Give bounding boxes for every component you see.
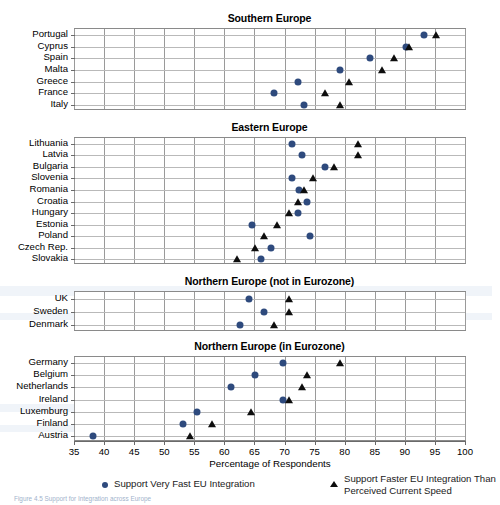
data-point-triangle xyxy=(186,432,194,439)
gridline-vertical xyxy=(74,138,75,263)
gridline-vertical xyxy=(74,357,75,440)
gridline-vertical xyxy=(224,138,225,263)
legend-label-faster: Support Faster EU Integration ThanPercei… xyxy=(344,473,500,496)
y-axis-label-uk: UK xyxy=(0,293,74,303)
data-point-triangle xyxy=(300,186,308,193)
x-axis-tick-label: 40 xyxy=(99,446,110,457)
y-axis-label-germany: Germany xyxy=(0,357,74,367)
data-point-circle xyxy=(300,102,307,109)
gridline-horizontal xyxy=(75,424,465,425)
gridline-vertical xyxy=(465,292,466,330)
data-point-triangle xyxy=(247,408,255,415)
gridline-horizontal xyxy=(75,400,465,401)
x-axis-tick-label: 80 xyxy=(339,446,350,457)
y-axis-label-poland: Poland xyxy=(0,230,74,240)
data-point-triangle xyxy=(233,255,241,262)
gridline-vertical xyxy=(375,29,376,109)
y-axis-label-france: France xyxy=(0,87,74,97)
data-point-triangle xyxy=(285,295,293,302)
x-axis-tick xyxy=(74,441,75,445)
data-point-circle xyxy=(366,55,373,62)
gridline-vertical xyxy=(345,29,346,109)
gridline-vertical xyxy=(375,357,376,440)
gridline-vertical xyxy=(134,138,135,263)
gridline-horizontal xyxy=(75,178,465,179)
gridline-vertical xyxy=(164,29,165,109)
data-point-circle xyxy=(288,175,295,182)
gridline-vertical xyxy=(465,357,466,440)
legend-circle-marker-icon xyxy=(102,482,108,488)
gridline-horizontal xyxy=(75,35,465,36)
data-point-circle xyxy=(306,233,313,240)
data-point-triangle xyxy=(345,78,353,85)
data-point-circle xyxy=(252,372,259,379)
gridline-vertical xyxy=(435,138,436,263)
data-point-triangle xyxy=(298,383,306,390)
panel-title: Northern Europe (not in Eurozone) xyxy=(74,275,465,287)
data-point-circle xyxy=(294,78,301,85)
y-axis-label-ireland: Ireland xyxy=(0,394,74,404)
gridline-horizontal xyxy=(75,436,465,437)
data-point-circle xyxy=(299,152,306,159)
y-axis-label-malta: Malta xyxy=(0,64,74,74)
data-point-triangle xyxy=(273,221,281,228)
gridline-vertical xyxy=(405,357,406,440)
gridline-vertical xyxy=(435,357,436,440)
data-point-circle xyxy=(90,432,97,439)
data-point-circle xyxy=(321,163,328,170)
x-axis-tick xyxy=(164,441,165,445)
y-axis-label-croatia: Croatia xyxy=(0,196,74,206)
x-axis-tick-label: 95 xyxy=(430,446,441,457)
gridline-horizontal xyxy=(75,58,465,59)
y-axis-label-lithuania: Lithuania xyxy=(0,138,74,148)
y-axis-label-denmark: Denmark xyxy=(0,319,74,329)
x-axis-tick-label: 85 xyxy=(369,446,380,457)
x-axis-tick xyxy=(375,441,376,445)
gridline-vertical xyxy=(254,29,255,109)
gridline-vertical xyxy=(465,29,466,109)
y-axis-label-finland: Finland xyxy=(0,418,74,428)
data-point-triangle xyxy=(285,209,293,216)
data-point-triangle xyxy=(321,90,329,97)
y-axis-label-sweden: Sweden xyxy=(0,306,74,316)
legend-triangle-marker-icon xyxy=(330,481,338,487)
data-point-triangle xyxy=(390,54,398,61)
x-axis-tick xyxy=(194,441,195,445)
x-axis-tick-label: 90 xyxy=(400,446,411,457)
gridline-horizontal xyxy=(75,375,465,376)
data-point-circle xyxy=(179,420,186,427)
gridline-vertical xyxy=(315,357,316,440)
gridline-horizontal xyxy=(75,259,465,260)
data-point-triangle xyxy=(251,244,259,251)
gridline-horizontal xyxy=(75,363,465,364)
gridline-vertical xyxy=(164,138,165,263)
x-axis-tick xyxy=(345,441,346,445)
gridline-vertical xyxy=(194,29,195,109)
gridline-vertical xyxy=(194,138,195,263)
x-axis-tick xyxy=(465,441,466,445)
y-axis-label-austria: Austria xyxy=(0,430,74,440)
panel-plot-area xyxy=(74,137,466,264)
y-axis-label-czech-rep: Czech Rep. xyxy=(0,242,74,252)
gridline-vertical xyxy=(134,29,135,109)
x-axis-line xyxy=(74,441,466,442)
legend-label-faster-line1: Support Faster EU Integration Than xyxy=(344,473,496,484)
data-point-circle xyxy=(288,140,295,147)
y-axis-label-spain: Spain xyxy=(0,52,74,62)
x-axis-tick xyxy=(254,441,255,445)
gridline-vertical xyxy=(285,29,286,109)
gridline-vertical xyxy=(104,357,105,440)
gridline-vertical xyxy=(254,357,255,440)
data-point-triangle xyxy=(303,371,311,378)
data-point-circle xyxy=(304,198,311,205)
legend-label-very-fast: Support Very Fast EU Integration xyxy=(114,478,255,489)
gridline-vertical xyxy=(74,29,75,109)
data-point-triangle xyxy=(330,163,338,170)
gridline-vertical xyxy=(224,29,225,109)
panel-title: Southern Europe xyxy=(74,12,465,24)
y-axis-label-latvia: Latvia xyxy=(0,149,74,159)
data-point-circle xyxy=(267,244,274,251)
gridline-vertical xyxy=(164,357,165,440)
data-point-triangle xyxy=(260,232,268,239)
data-point-circle xyxy=(228,384,235,391)
